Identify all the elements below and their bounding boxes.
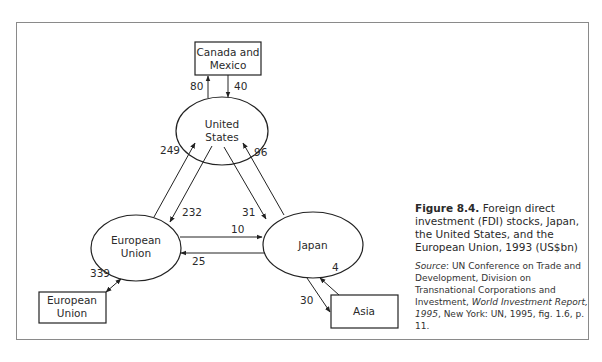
node-japan-label: Japan — [297, 239, 327, 251]
node-european-union-box-line2: Union — [57, 307, 87, 319]
edge-label-asia-to-japan: 4 — [332, 261, 339, 273]
node-united-states-line1: United — [205, 118, 240, 130]
figure-source: Source: UN Conference on Trade and Devel… — [415, 260, 590, 332]
node-canada-mexico: Canada and Mexico — [195, 42, 261, 75]
edge-label-eu-to-us: 249 — [160, 144, 180, 156]
edge-label-japan-to-asia: 30 — [300, 294, 313, 306]
node-european-union-box-line1: European — [47, 294, 97, 306]
edge-label-us-to-eu: 232 — [182, 206, 202, 218]
edge-eu-to-eu-box — [106, 279, 121, 292]
figure-caption: Figure 8.4. Foreign direct investment (F… — [415, 202, 590, 254]
edge-asia-to-japan — [320, 278, 339, 295]
edge-label-us-to-canada: 80 — [190, 80, 203, 92]
edge-label-eu-to-eu-box: 339 — [90, 267, 110, 279]
node-canada-mexico-line2: Mexico — [210, 59, 247, 71]
source-label: Source — [415, 261, 446, 271]
edge-label-japan-to-us: 96 — [254, 146, 268, 158]
node-japan: Japan — [263, 212, 363, 278]
source-text-2: , New York: UN, 1995, fig. 1.6, p. 11. — [415, 309, 584, 331]
edge-label-japan-to-eu: 25 — [192, 255, 205, 267]
node-united-states-line2: States — [205, 131, 238, 143]
figure-number: Figure 8.4. — [415, 202, 479, 214]
node-asia: Asia — [331, 295, 398, 328]
node-european-union-line1: European — [111, 234, 161, 246]
edge-label-eu-to-japan: 10 — [231, 223, 244, 235]
node-asia-label: Asia — [353, 305, 375, 317]
edge-label-us-to-japan: 31 — [242, 206, 255, 218]
node-european-union-box: European Union — [39, 292, 106, 323]
node-canada-mexico-line1: Canada and — [196, 46, 259, 58]
node-european-union-line2: Union — [121, 247, 151, 259]
edge-label-canada-to-us: 40 — [234, 80, 247, 92]
